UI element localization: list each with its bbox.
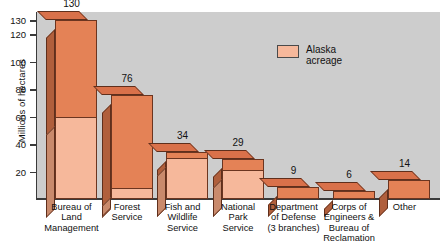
category-label-4: National Park Service [221, 202, 255, 233]
y-tick-label-80: 80 [0, 84, 26, 95]
bar-4 [222, 159, 264, 199]
legend-swatch-alaska-acreage [277, 45, 299, 58]
y-tick-label-20: 20 [0, 166, 26, 177]
bar-total-value-label: 34 [177, 130, 188, 141]
bar-top-face [315, 182, 366, 191]
bar-1 [55, 20, 97, 199]
bar-top-face [148, 143, 199, 152]
bar-segment-alaska [166, 158, 208, 199]
bar-total-value-label: 130 [63, 0, 80, 9]
bar-top-face [37, 11, 88, 20]
y-tick-20 [30, 172, 36, 174]
bar-segment-total [333, 191, 375, 199]
bar-segment-total [277, 187, 319, 199]
bar-top-face [204, 150, 255, 159]
y-tick-40 [30, 144, 36, 146]
category-label-3: Fish and Wildlife Service [165, 202, 201, 233]
legend-label-alaska-acreage: Alaska acreage [306, 44, 342, 66]
bar-3 [166, 152, 208, 199]
bar-5 [277, 187, 319, 199]
bar-top-face [93, 86, 144, 95]
bar-2 [111, 95, 153, 200]
y-tick-label-120: 120 [0, 29, 26, 40]
bar-segment-alaska [111, 188, 153, 199]
bar-chart: Millions of hectares 13012010080604020 6… [0, 0, 446, 244]
bar-total-value-label: 6 [346, 169, 352, 180]
category-label-5: Department of Defense (3 branches) [267, 202, 319, 233]
y-tick-label-130: 130 [0, 15, 26, 26]
category-label-6: Corps of Engineers & Bureau of Reclamati… [323, 202, 375, 243]
y-tick-80 [30, 89, 36, 91]
legend: Alaska acreage [277, 44, 342, 66]
bar-7 [388, 180, 430, 199]
bar-6 [333, 191, 375, 199]
bar-segment-alaska [222, 170, 264, 199]
category-label-1: Bureau of Land Management [44, 202, 98, 233]
y-tick-100 [30, 62, 36, 64]
bar-top-face [370, 171, 421, 180]
bar-total-value-label: 14 [399, 158, 410, 169]
y-tick-130 [30, 20, 36, 22]
y-tick-label-100: 100 [0, 56, 26, 67]
bar-segment-alaska [55, 117, 97, 200]
y-tick-label-40: 40 [0, 139, 26, 150]
y-axis-title: Millions of hectares [16, 26, 27, 176]
bar-total-value-label: 9 [291, 165, 297, 176]
bar-segment-total [111, 95, 153, 200]
y-tick-60 [30, 117, 36, 119]
y-tick-120 [30, 34, 36, 36]
category-label-7: Other [393, 202, 416, 212]
y-tick-label-60: 60 [0, 111, 26, 122]
bar-segment-total [388, 180, 430, 199]
bar-total-value-label: 29 [232, 137, 243, 148]
bar-total-value-label: 76 [121, 73, 132, 84]
bar-top-face [259, 178, 310, 187]
category-label-2: Forest Service [111, 202, 142, 223]
